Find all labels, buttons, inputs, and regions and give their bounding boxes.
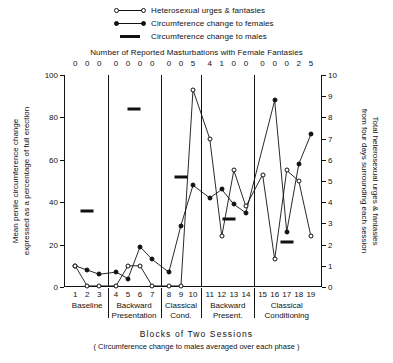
right-axis-tick xyxy=(322,202,326,203)
masturbation-count: 0 xyxy=(272,59,276,68)
data-point-open xyxy=(219,234,224,239)
data-point-filled xyxy=(113,270,118,275)
data-point-open xyxy=(243,204,248,209)
right-axis-tick xyxy=(322,139,326,140)
top-axis-title: Number of Reported Masturbations with Fe… xyxy=(0,48,393,57)
right-axis-tick xyxy=(322,245,326,246)
filled-circle-line-icon xyxy=(112,18,148,29)
left-axis-tick-label: 20 xyxy=(49,240,58,249)
phase-label: BackwardPresent. xyxy=(210,301,245,321)
phase-divider xyxy=(254,75,255,287)
x-tick-label: 9 xyxy=(179,290,183,299)
phase-label-line1: Baseline xyxy=(72,301,103,311)
data-point-filled xyxy=(231,202,236,207)
males-phase-mean-dash xyxy=(280,241,293,244)
males-phase-mean-dash xyxy=(81,209,94,212)
left-axis-tick xyxy=(60,245,64,246)
left-axis-title: Mean penile circumference change express… xyxy=(6,75,36,287)
males-phase-mean-dash xyxy=(174,175,187,178)
right-axis-tick-label: 9 xyxy=(328,92,332,101)
masturbation-count: 0 xyxy=(284,59,288,68)
right-axis-tick-label: 8 xyxy=(328,113,332,122)
x-tick-label: 7 xyxy=(150,290,154,299)
males-phase-mean-dash xyxy=(128,107,141,110)
x-tick-label: 11 xyxy=(206,290,214,299)
phase-label-line1: Backward xyxy=(112,301,157,311)
left-axis-tick xyxy=(60,75,64,76)
masturbation-count: 0 xyxy=(126,59,130,68)
masturbation-count: 0 xyxy=(260,59,264,68)
masturbation-count: 0 xyxy=(85,59,89,68)
left-axis-tick-label: 100 xyxy=(45,71,58,80)
data-point-open xyxy=(138,263,143,268)
males-phase-mean-dash xyxy=(223,218,236,221)
legend-label-urges: Heterosexual urges & fantasies xyxy=(148,6,265,15)
right-axis-tick-label: 3 xyxy=(328,219,332,228)
x-axis-title: Blocks of Two Sessions xyxy=(0,329,393,339)
right-axis-tick xyxy=(322,266,326,267)
data-point-filled xyxy=(85,268,90,273)
x-tick-label: 2 xyxy=(85,290,89,299)
data-point-open xyxy=(231,168,236,173)
masturbation-count: 0 xyxy=(232,59,236,68)
phase-label: ClassicalCond. xyxy=(165,301,197,321)
masturbation-count: 5 xyxy=(309,59,313,68)
data-point-open xyxy=(272,257,277,262)
masturbation-count: 0 xyxy=(138,59,142,68)
left-axis-tick xyxy=(60,160,64,161)
data-point-filled xyxy=(219,187,224,192)
masturbation-count: 0 xyxy=(97,59,101,68)
phase-label-line1: Backward xyxy=(210,301,245,311)
data-point-open xyxy=(284,168,289,173)
left-axis-tick-label: 40 xyxy=(49,198,58,207)
data-point-filled xyxy=(308,132,313,137)
masturbation-count: 5 xyxy=(191,59,195,68)
x-tick-label: 3 xyxy=(97,290,101,299)
right-axis-tick-label: 10 xyxy=(328,71,337,80)
x-tick-label: 17 xyxy=(282,290,291,299)
phase-label-line1: Classical xyxy=(264,301,308,311)
data-point-filled xyxy=(150,257,155,262)
data-point-filled xyxy=(178,223,183,228)
data-point-open xyxy=(207,136,212,141)
masturbation-count: 4 xyxy=(207,59,211,68)
masturbation-count: 0 xyxy=(179,59,183,68)
data-point-filled xyxy=(272,98,277,103)
phase-label-line2: Presentation xyxy=(112,311,157,321)
phase-divider xyxy=(108,75,109,287)
data-point-filled xyxy=(166,270,171,275)
masturbation-count: 0 xyxy=(73,59,77,68)
data-point-filled xyxy=(207,195,212,200)
masturbation-counts-row: 0000000005410000025 xyxy=(0,59,393,70)
x-axis-tick-labels: 12345678910111213141516171819 xyxy=(0,290,393,301)
x-tick-label: 19 xyxy=(306,290,315,299)
legend-item-females: Circumference change to females xyxy=(112,17,342,30)
data-point-open xyxy=(126,263,131,268)
phase-label-line1: Classical xyxy=(165,301,197,311)
data-point-filled xyxy=(243,210,248,215)
thick-dash-icon xyxy=(112,31,148,42)
x-tick-label: 10 xyxy=(189,290,198,299)
right-axis-title: Total heterosexual urges & fantasies fro… xyxy=(352,75,388,287)
right-axis-tick-label: 2 xyxy=(328,240,332,249)
right-axis-tick xyxy=(322,75,326,76)
right-axis-tick xyxy=(322,223,326,224)
masturbation-count: 0 xyxy=(167,59,171,68)
data-point-open xyxy=(73,263,78,268)
legend: Heterosexual urges & fantasies Circumfer… xyxy=(112,4,342,43)
data-point-open xyxy=(191,87,196,92)
data-point-filled xyxy=(284,229,289,234)
right-axis-title-text: Total heterosexual urges & fantasies fro… xyxy=(359,109,381,254)
data-point-open xyxy=(296,179,301,184)
legend-label-females: Circumference change to females xyxy=(148,19,274,28)
x-tick-label: 12 xyxy=(217,290,226,299)
x-axis-subtitle: ( Circumference change to males averaged… xyxy=(0,342,393,351)
right-axis-tick-label: 1 xyxy=(328,261,332,270)
left-axis-tick xyxy=(60,202,64,203)
x-tick-label: 4 xyxy=(114,290,118,299)
masturbation-count: 0 xyxy=(150,59,154,68)
right-axis-tick xyxy=(322,117,326,118)
right-axis-tick-label: 7 xyxy=(328,134,332,143)
x-tick-label: 16 xyxy=(270,290,279,299)
top-axis-title-text: Number of Reported Masturbations with Fe… xyxy=(90,48,303,57)
